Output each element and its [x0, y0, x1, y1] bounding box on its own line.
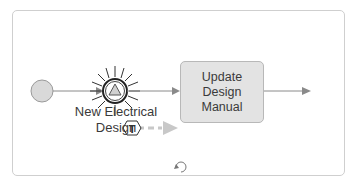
start-event[interactable] — [31, 80, 53, 102]
task-label-line1: Update — [202, 70, 243, 85]
task-label-line3: Manual — [202, 100, 243, 115]
task-update-design-manual[interactable]: Update Design Manual — [180, 61, 264, 123]
diagram-canvas: T — [0, 0, 353, 185]
event-label-line2: Design — [62, 120, 170, 136]
intermediate-signal-event[interactable] — [103, 79, 127, 103]
arrowhead-icon — [302, 87, 311, 95]
task-label-line2: Design — [202, 85, 243, 100]
event-label-line1: New Electrical — [62, 104, 170, 120]
intermediate-event-label: New Electrical Design — [62, 104, 170, 136]
loop-icon[interactable] — [174, 162, 186, 172]
arrowhead-icon — [172, 87, 180, 95]
